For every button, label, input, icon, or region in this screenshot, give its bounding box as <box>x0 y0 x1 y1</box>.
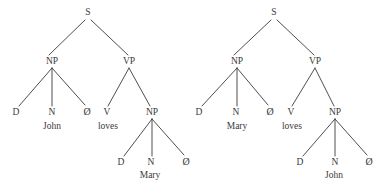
node-label-tree-right-d1: D <box>196 108 203 118</box>
node-label-tree-left-null1: Ø <box>83 107 90 117</box>
node-label-tree-right-v: V <box>288 108 295 118</box>
tree-edge-tree-right-np2-to-null2 <box>335 119 367 155</box>
node-label-tree-left-vp: VP <box>123 57 135 67</box>
node-label-tree-left-n2: N <box>148 158 155 168</box>
tree-edge-tree-right-s-to-vp <box>277 20 314 55</box>
tree-edge-tree-left-np1-to-null1 <box>52 68 85 105</box>
node-label-tree-left-s: S <box>85 8 90 18</box>
tree-edge-tree-left-np2-to-d2 <box>124 119 152 156</box>
tree-edge-tree-left-vp-to-np2 <box>129 68 150 106</box>
node-label-tree-left-np1: NP <box>46 57 58 67</box>
tree-edge-tree-left-vp-to-v <box>108 68 129 106</box>
tree-edge-tree-right-np1-to-d1 <box>202 68 237 106</box>
node-label-tree-right-d2: D <box>297 158 304 168</box>
tree-edge-tree-right-np1-to-null1 <box>237 68 268 105</box>
node-label-tree-right-np2: NP <box>329 108 341 118</box>
node-label-tree-left-n1: N <box>49 108 56 118</box>
leaf-word-tree-right-w-mary: Mary <box>227 122 248 132</box>
leaf-word-tree-left-w-loves: loves <box>98 122 118 132</box>
tree-edge-tree-left-np1-to-d1 <box>19 68 52 106</box>
leaf-word-tree-left-w-john: John <box>43 122 61 132</box>
node-label-tree-right-n1: N <box>233 108 240 118</box>
leaf-word-tree-right-w-john: John <box>325 171 343 181</box>
node-label-tree-left-null2: Ø <box>182 157 189 167</box>
tree-edge-tree-left-s-to-vp <box>91 20 128 55</box>
node-label-tree-right-null1: Ø <box>266 107 273 117</box>
node-label-tree-right-n2: N <box>332 158 339 168</box>
node-label-tree-left-d2: D <box>118 158 125 168</box>
syntax-tree-figure: SNPVPDNØVNPDNØJohnlovesMarySNPVPDNØVNPDN… <box>0 0 389 189</box>
node-label-tree-left-d1: D <box>13 108 20 118</box>
tree-edge-tree-right-vp-to-np2 <box>315 68 334 106</box>
tree-edge-tree-left-np2-to-null2 <box>152 119 184 155</box>
tree-edge-tree-right-np2-to-d2 <box>303 119 335 156</box>
node-label-tree-right-np1: NP <box>231 57 243 67</box>
node-label-tree-right-s: S <box>271 8 276 18</box>
tree-edge-tree-left-s-to-np1 <box>49 20 85 55</box>
leaf-word-tree-left-w-mary: Mary <box>140 171 161 181</box>
tree-edge-tree-right-vp-to-v <box>292 68 315 106</box>
node-label-tree-right-null2: Ø <box>365 157 372 167</box>
leaf-word-tree-right-w-loves: loves <box>282 122 302 132</box>
node-label-tree-left-v: V <box>104 108 111 118</box>
tree-edge-tree-right-s-to-np1 <box>234 20 271 55</box>
node-label-tree-right-vp: VP <box>309 57 321 67</box>
node-label-tree-left-np2: NP <box>146 108 158 118</box>
